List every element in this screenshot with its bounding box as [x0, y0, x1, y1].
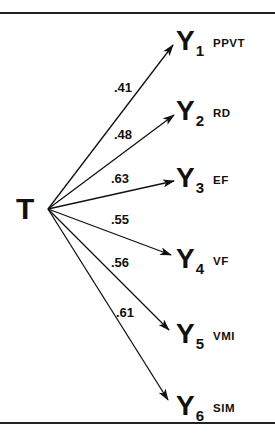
coef-y1: .41	[114, 81, 132, 94]
source-node-t: T	[16, 194, 34, 224]
target-letter: Y	[176, 95, 195, 126]
coef-y6: .61	[116, 306, 134, 319]
target-letter: Y	[176, 390, 195, 421]
target-node-y4: Y4VF	[176, 245, 229, 273]
target-letter: Y	[176, 318, 195, 349]
target-abbr: EF	[213, 174, 229, 186]
target-node-y1: Y1PPVT	[176, 27, 245, 55]
target-letter: Y	[176, 243, 195, 274]
arrow-t-y4	[48, 209, 171, 255]
target-abbr: VF	[213, 255, 229, 267]
target-subscript: 2	[196, 112, 204, 129]
target-abbr: RD	[213, 107, 231, 119]
coef-y2: .48	[114, 128, 132, 141]
target-node-y6: Y6SIM	[176, 392, 235, 420]
target-node-y2: Y2RD	[176, 97, 231, 125]
target-node-y3: Y3EF	[176, 164, 229, 192]
target-letter: Y	[176, 25, 195, 56]
target-subscript: 5	[196, 335, 204, 352]
arrow-t-y6	[48, 209, 168, 400]
coef-y5: .56	[111, 256, 129, 269]
path-arrows	[0, 0, 275, 442]
target-abbr: VMI	[213, 330, 235, 342]
target-subscript: 3	[196, 179, 204, 196]
coef-y4: .55	[111, 213, 129, 226]
arrow-t-y5	[48, 209, 169, 330]
target-abbr: PPVT	[213, 37, 245, 49]
coef-y3: .63	[111, 172, 129, 185]
target-subscript: 6	[196, 407, 204, 424]
target-letter: Y	[176, 162, 195, 193]
target-subscript: 4	[196, 260, 204, 277]
target-subscript: 1	[196, 42, 204, 59]
target-abbr: SIM	[213, 402, 235, 414]
target-node-y5: Y5VMI	[176, 320, 235, 348]
